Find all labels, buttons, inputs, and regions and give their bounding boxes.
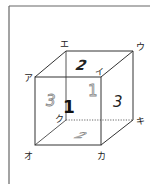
vertex-label-u: ウ [136,42,145,52]
diagram-canvas: ア エ ウ イ ク キ オ カ 2 3 1 1 3 2 [0,0,153,184]
vertex-label-ka: カ [97,151,106,161]
vertex-label-ki: キ [136,116,145,126]
vertex-label-e: エ [60,39,69,49]
face-number-right: 3 [113,93,123,111]
vertex-label-o: オ [24,151,33,161]
face-number-bottom-ghost: 2 [72,130,89,139]
vertex-label-i: イ [95,67,104,77]
cube-diagram: ア エ ウ イ ク キ オ カ 2 3 1 1 3 2 [0,0,153,184]
face-number-top: 2 [74,57,88,73]
face-number-left-ghost: 3 [46,92,56,110]
vertex-label-a: ア [24,73,33,83]
face-numbers: 2 3 1 1 3 2 [46,57,123,140]
face-number-back-ghost: 1 [88,82,98,100]
face-number-front: 1 [63,97,75,117]
